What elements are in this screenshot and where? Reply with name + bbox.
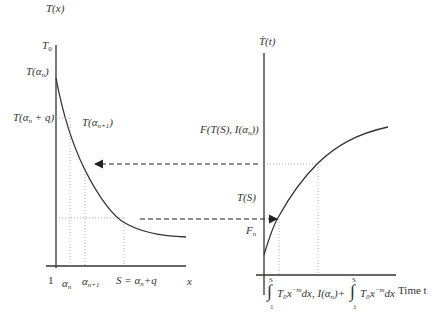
left-dotted-guides xyxy=(56,118,124,266)
tick-x-one: 1 xyxy=(48,275,54,286)
integral2-sign: ∫ xyxy=(350,282,355,300)
curve-label-t-alpha-n1: T(αn+1) xyxy=(82,117,113,130)
tick-integral1: T₀x−mdx, I(αn)+ xyxy=(277,287,345,301)
tick-t-alpha-n: T(αn) xyxy=(26,66,49,79)
integral1-lower-limit: 1 xyxy=(270,304,274,311)
right-y-axis-label: Ṫ(t) xyxy=(259,36,276,47)
integral1-sign: ∫ xyxy=(267,282,272,300)
tick-s-equals: S = αn+q xyxy=(116,275,157,288)
left-y-axis-label: T(x) xyxy=(46,3,64,14)
tick-alpha-n: αn xyxy=(62,278,71,291)
tick-ts: T(S) xyxy=(237,192,256,203)
right-growth-curve xyxy=(264,127,388,255)
right-x-axis-label: Time t xyxy=(398,285,427,296)
integral2-lower-limit: 1 xyxy=(353,304,357,311)
left-panel-axes xyxy=(46,45,186,268)
tick-t0: T0 xyxy=(42,40,52,53)
tick-t-alpha-n-plus-q: T(αn + q) xyxy=(13,112,54,125)
figure-canvas: T(x) T0 T(αn) T(αn + q) T(αn+1) 1 αn αn+… xyxy=(0,0,432,318)
left-x-axis-label: x xyxy=(187,276,192,287)
right-panel-axes xyxy=(256,53,396,295)
tick-fn: Fn xyxy=(246,225,256,238)
left-decay-curve xyxy=(56,78,186,237)
tick-alpha-n1: αn+1 xyxy=(82,276,100,289)
diagram-graphics xyxy=(0,0,432,318)
tick-f-ts-i-alpha: F(T(S), I(αn)) xyxy=(200,124,259,137)
tick-integral2: T₀x−mdx xyxy=(360,287,395,299)
